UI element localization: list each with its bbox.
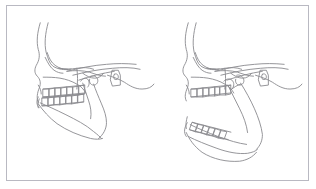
occipital-outline <box>255 75 301 89</box>
frontal-bone-outline <box>193 23 219 70</box>
tracing-panel-left <box>7 6 158 180</box>
nasal-aperture <box>193 57 211 73</box>
nasal-aperture <box>45 57 63 73</box>
tracing-panel-right <box>158 6 309 180</box>
mandibular-body <box>40 103 101 139</box>
tooth-upper-1 <box>43 89 49 97</box>
mandibular-inferior-border <box>38 104 102 139</box>
cranial-base-line-2 <box>220 68 287 76</box>
mandibular-ramus <box>240 83 262 149</box>
soft-tissue-profile <box>182 23 187 101</box>
figure-frame <box>6 5 309 181</box>
soft-tissue-profile <box>35 23 40 103</box>
sigmoid-notch <box>230 84 240 90</box>
frontal-bone-outline <box>45 23 71 70</box>
mandibular-inferior-border <box>186 133 256 162</box>
occipital-outline <box>107 75 153 89</box>
tooth-lower-3 <box>54 97 60 105</box>
lower-occlusal-line <box>192 119 231 136</box>
mandibular-ramus <box>94 84 107 138</box>
skull-tracing-open <box>158 6 309 180</box>
skull-tracing-closed <box>7 6 158 180</box>
cranial-base-line-2 <box>73 68 140 76</box>
tooth-upper-1 <box>191 89 197 97</box>
